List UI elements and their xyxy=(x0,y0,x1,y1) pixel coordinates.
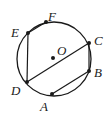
label-c: C xyxy=(94,34,103,47)
label-f: F xyxy=(48,10,56,23)
label-d: D xyxy=(11,84,20,97)
label-a: A xyxy=(40,100,48,113)
label-b: B xyxy=(94,66,102,79)
point-e xyxy=(26,31,30,35)
point-c xyxy=(87,41,91,45)
point-d xyxy=(25,80,29,84)
label-e: E xyxy=(11,26,19,39)
point-b xyxy=(87,69,91,73)
center-point-o xyxy=(51,56,55,60)
label-o: O xyxy=(57,44,66,57)
chord-ba xyxy=(52,71,89,94)
chord-ef xyxy=(28,22,46,33)
point-a xyxy=(50,92,54,96)
chord-ed xyxy=(27,33,28,82)
